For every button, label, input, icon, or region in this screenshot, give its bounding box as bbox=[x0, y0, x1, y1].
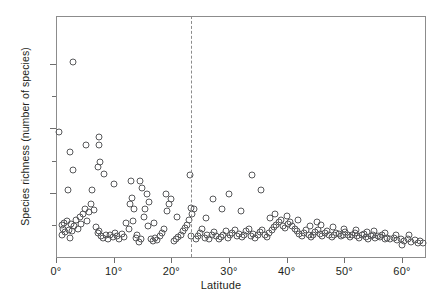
x-axis-tick-label: 60° bbox=[393, 266, 410, 277]
data-point bbox=[84, 217, 91, 224]
data-point bbox=[144, 191, 151, 198]
data-point bbox=[341, 225, 348, 232]
data-point bbox=[70, 58, 77, 65]
x-axis-tick-label: 30° bbox=[220, 266, 237, 277]
data-point bbox=[64, 187, 71, 194]
data-point bbox=[95, 134, 102, 141]
data-point bbox=[187, 172, 194, 179]
x-axis-line bbox=[56, 257, 426, 258]
data-point bbox=[219, 205, 226, 212]
data-point bbox=[151, 220, 158, 227]
data-point bbox=[70, 167, 77, 174]
data-point bbox=[137, 178, 144, 185]
data-point bbox=[140, 213, 147, 220]
data-point bbox=[56, 128, 63, 135]
data-point bbox=[67, 148, 74, 155]
data-point bbox=[405, 232, 412, 239]
data-point bbox=[110, 180, 117, 187]
x-axis-tick bbox=[114, 258, 115, 263]
data-point bbox=[101, 171, 108, 178]
data-point bbox=[225, 190, 232, 197]
x-axis-tick bbox=[344, 258, 345, 263]
data-point bbox=[272, 210, 279, 217]
data-point bbox=[162, 190, 169, 197]
data-point bbox=[393, 231, 400, 238]
data-point bbox=[121, 233, 128, 240]
x-axis-tick bbox=[229, 258, 230, 263]
data-point bbox=[129, 194, 136, 201]
x-axis-tick bbox=[171, 258, 172, 263]
data-point bbox=[89, 187, 96, 194]
data-point bbox=[139, 184, 146, 191]
scatter-plot-figure: 40080012000°10°20°30°40°50°60° Species r… bbox=[0, 0, 442, 306]
data-point bbox=[145, 198, 152, 205]
data-point bbox=[318, 221, 325, 228]
data-point bbox=[130, 205, 137, 212]
data-point bbox=[161, 225, 168, 232]
data-point bbox=[125, 225, 132, 232]
x-axis-title: Latitude bbox=[0, 280, 442, 291]
data-point bbox=[202, 214, 209, 221]
data-point bbox=[91, 206, 98, 213]
tropic-reference-line bbox=[191, 16, 192, 257]
data-point bbox=[127, 178, 134, 185]
data-point bbox=[398, 241, 405, 248]
data-point bbox=[329, 224, 336, 231]
x-axis-tick-label: 10° bbox=[105, 266, 122, 277]
data-point bbox=[96, 159, 103, 166]
data-point bbox=[381, 229, 388, 236]
data-point bbox=[283, 213, 290, 220]
x-axis-tick-label: 40° bbox=[278, 266, 295, 277]
data-point bbox=[258, 186, 265, 193]
x-axis-tick-label: 50° bbox=[336, 266, 353, 277]
data-point bbox=[237, 208, 244, 215]
x-axis-tick-label: 0° bbox=[51, 266, 62, 277]
x-axis-tick bbox=[56, 258, 57, 263]
data-point bbox=[249, 172, 256, 179]
data-point bbox=[138, 236, 145, 243]
data-point bbox=[59, 221, 66, 228]
x-axis-tick bbox=[402, 258, 403, 263]
y-axis-title: Species richness (number of species) bbox=[20, 16, 31, 257]
x-axis-tick bbox=[287, 258, 288, 263]
data-point bbox=[142, 205, 149, 212]
data-point bbox=[66, 234, 73, 241]
data-point bbox=[209, 196, 216, 203]
data-point bbox=[174, 213, 181, 220]
plot-frame-right bbox=[425, 16, 426, 258]
data-point bbox=[82, 141, 89, 148]
data-point bbox=[295, 217, 302, 224]
data-point bbox=[168, 196, 175, 203]
data-point-layer bbox=[56, 16, 425, 257]
data-point bbox=[163, 208, 170, 215]
data-point bbox=[130, 217, 137, 224]
data-point bbox=[95, 141, 102, 148]
x-axis-tick-label: 20° bbox=[163, 266, 180, 277]
data-point bbox=[419, 240, 426, 247]
